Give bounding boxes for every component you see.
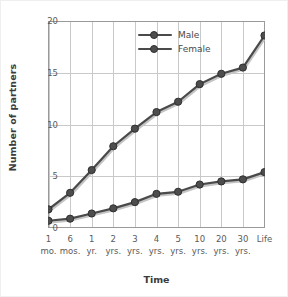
data-point — [218, 178, 225, 185]
data-point — [261, 169, 265, 176]
line-chart: Number of partners 05101520 1mo.6mos.1yr… — [0, 0, 288, 297]
data-point — [239, 64, 246, 71]
data-point — [48, 206, 52, 213]
y-tick-label: 15 — [36, 68, 58, 78]
data-point — [88, 210, 95, 217]
data-point — [110, 205, 117, 212]
legend-item-male[interactable]: Male — [138, 28, 211, 41]
data-point — [175, 98, 182, 105]
data-point — [261, 32, 265, 39]
legend-item-female[interactable]: Female — [138, 42, 211, 55]
y-tick-label: 0 — [36, 223, 58, 233]
data-point — [131, 125, 138, 132]
y-tick-label: 5 — [36, 171, 58, 181]
y-axis-title-label: Number of partners — [8, 63, 19, 171]
x-tick-label: Life — [245, 234, 285, 257]
data-point — [196, 81, 203, 88]
data-point — [131, 199, 138, 206]
y-axis-title: Number of partners — [3, 1, 23, 233]
legend-marker-icon — [138, 29, 172, 41]
legend-marker-icon — [138, 43, 172, 55]
data-point — [196, 181, 203, 188]
legend-item-label: Female — [178, 44, 211, 54]
data-point — [67, 215, 74, 222]
y-tick-label: 10 — [36, 120, 58, 130]
chart-legend: MaleFemale — [138, 28, 211, 55]
legend-item-label: Male — [178, 30, 199, 40]
data-point — [218, 70, 225, 77]
y-tick-label: 20 — [36, 16, 58, 26]
data-point — [110, 143, 117, 150]
data-point — [175, 188, 182, 195]
data-point — [153, 190, 160, 197]
data-point — [239, 176, 246, 183]
data-point — [88, 166, 95, 173]
data-point — [67, 189, 74, 196]
x-axis-title: Time — [48, 274, 265, 285]
data-point — [153, 108, 160, 115]
